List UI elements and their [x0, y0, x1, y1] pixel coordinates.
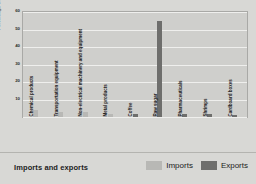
bar: [83, 112, 88, 117]
bar: [108, 114, 113, 118]
legend-item: Imports: [146, 161, 193, 170]
x-axis-category-label: Cardboard boxes: [228, 79, 233, 116]
y-axis-tick-label: 40: [8, 44, 20, 48]
legend-item: Exports: [201, 161, 248, 170]
gridline: [23, 117, 247, 118]
legend-swatch: [201, 161, 217, 170]
x-axis-category-label: Non-electrical machinery and equipment: [79, 28, 84, 116]
x-axis-category-label: Pharmaceuticals: [178, 80, 183, 116]
y-axis-tick-labels: 102030405060: [4, 11, 20, 118]
bar: [133, 114, 138, 118]
y-axis-title: Percentage of total: [0, 0, 1, 30]
gridline: [23, 47, 247, 48]
legend-swatch: [146, 161, 162, 170]
gridline: [23, 12, 247, 13]
x-axis-category-label: Coffee: [129, 102, 134, 116]
y-axis-tick-label: 30: [8, 62, 20, 66]
bar: [182, 114, 187, 118]
legend-label: Exports: [221, 161, 248, 170]
legend: ImportsExports: [146, 161, 248, 170]
gridline: [23, 30, 247, 31]
plot-area: Chemical productsTransportation equipmen…: [22, 11, 248, 118]
y-axis-tick-label: 60: [8, 9, 20, 13]
y-axis-tick-label: 20: [8, 79, 20, 83]
chart-page: Percentage of total 102030405060 Chemica…: [0, 0, 256, 184]
y-axis-tick-label: 10: [8, 97, 20, 101]
legend-label: Imports: [166, 161, 193, 170]
bar: [157, 21, 162, 117]
x-axis-category-label: Metal products: [104, 84, 109, 116]
x-axis-category-label: Chemical products: [29, 75, 34, 116]
footer-title: Imports and exports: [14, 163, 88, 172]
footer: Imports and exports ImportsExports: [0, 152, 256, 184]
x-axis-category-label: Shrimps: [203, 98, 208, 116]
x-axis-category-label: Transportation equipment: [54, 60, 59, 116]
y-axis-tick-label: 50: [8, 27, 20, 31]
x-axis-category-label: Raw sugar: [154, 93, 159, 116]
